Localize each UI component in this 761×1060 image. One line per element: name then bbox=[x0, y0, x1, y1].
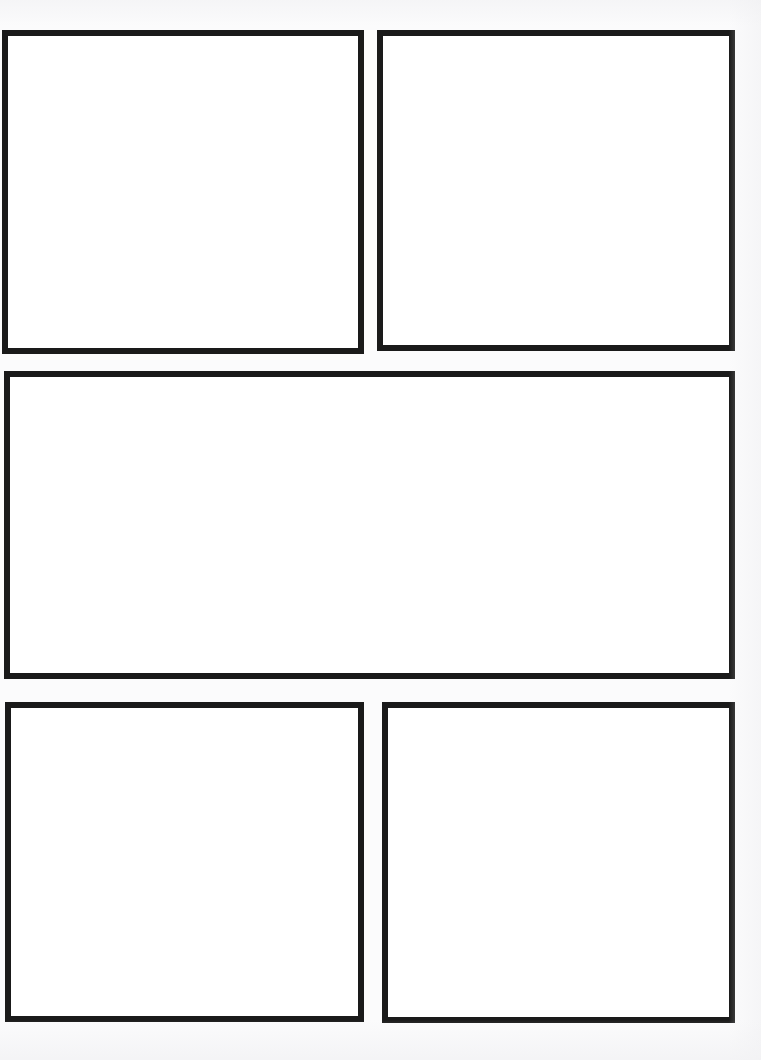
comic-panel-3-canvas[interactable] bbox=[10, 377, 729, 673]
comic-panel-2[interactable] bbox=[377, 30, 735, 351]
comic-panel-4-canvas[interactable] bbox=[11, 708, 358, 1016]
comic-panel-1-canvas[interactable] bbox=[8, 36, 358, 348]
comic-panel-5[interactable] bbox=[382, 702, 735, 1023]
comic-template-page bbox=[0, 0, 761, 1060]
comic-panel-4[interactable] bbox=[5, 702, 364, 1022]
comic-panel-2-canvas[interactable] bbox=[383, 36, 729, 345]
comic-panel-3[interactable] bbox=[4, 371, 735, 679]
comic-panel-1[interactable] bbox=[2, 30, 364, 354]
comic-panel-5-canvas[interactable] bbox=[388, 708, 729, 1017]
